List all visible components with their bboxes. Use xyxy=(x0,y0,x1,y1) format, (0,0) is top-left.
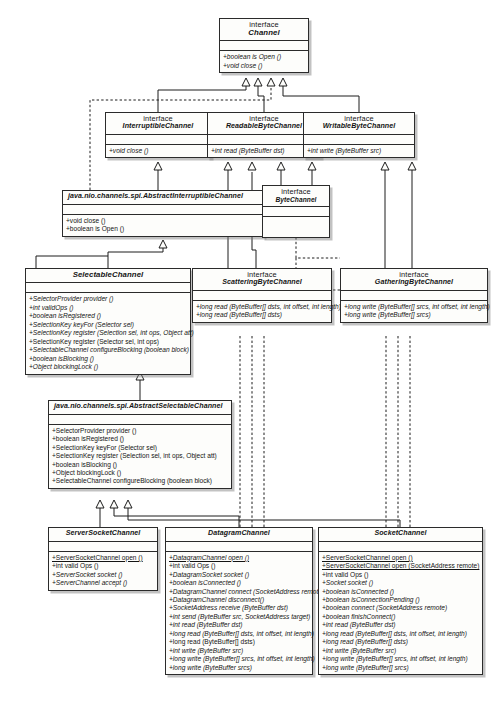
operation: +long read (ByteBuffer[] dsts) xyxy=(322,638,480,646)
class-header: java.nio.channels.spi.AbstractInterrupti… xyxy=(63,191,263,205)
class-header: java.nio.channels.spi.AbstractSelectable… xyxy=(49,401,231,415)
operation: +int read (ByteBuffer dst) xyxy=(169,621,310,629)
operation: +int send (ByteBuffer src, SocketAddress… xyxy=(169,613,310,621)
operation: +SelectionKey keyFor (Selector sel) xyxy=(29,321,188,329)
operation: +DatagramChannel disconnect() xyxy=(169,596,310,604)
class-header: interface WritableByteChannel xyxy=(304,113,414,135)
operation: +void close () xyxy=(109,147,208,155)
attributes-compartment xyxy=(49,542,157,552)
operation: +boolean isRegistered () xyxy=(29,312,188,320)
operation: +ServerSocketChannel open () xyxy=(322,554,480,562)
operation: +SelectionKey register (Selection sel, i… xyxy=(29,329,188,337)
class-box-selectablechannel[interactable]: SelectableChannel +SelectorProvider prov… xyxy=(25,268,191,375)
class-box-serversocketchannel[interactable]: ServerSocketChannel +ServerSocketChannel… xyxy=(48,527,158,591)
operation: +int write (ByteBuffer src) xyxy=(307,147,412,155)
operation: +int write (ByteBuffer src) xyxy=(169,647,310,655)
class-box-datagramchannel[interactable]: DatagramChannel +DatagramChannel open ()… xyxy=(165,527,313,675)
class-box-gatheringbytechannel[interactable]: interface GatheringByteChannel +long wri… xyxy=(340,268,488,323)
operation: +int write (ByteBuffer src) xyxy=(322,647,480,655)
class-header: ServerSocketChannel xyxy=(49,528,157,542)
attributes-compartment xyxy=(106,135,210,145)
operation: +boolean is Open () xyxy=(223,53,306,61)
operations-compartment: +void close () xyxy=(106,145,210,157)
operation: +SelectionKey register (Selection sel, i… xyxy=(52,452,229,460)
operation: +DatagramChannel connect (SocketAddress … xyxy=(169,588,310,596)
operations-compartment: +ServerSocketChannel open () +ServerSock… xyxy=(319,552,482,675)
operations-compartment: +SelectorProvider provider () +int valid… xyxy=(26,293,190,373)
operations-compartment: +void close () +boolean is Open () xyxy=(63,215,263,236)
operation: +int valid Ops () xyxy=(169,562,310,570)
operation: +DatagramSocket socket () xyxy=(169,571,310,579)
operation: +boolean finishConnect() xyxy=(322,613,480,621)
operation: +long write (ByteBuffer[] srcs) xyxy=(322,664,480,672)
class-box-channel[interactable]: interface Channel +boolean is Open () +v… xyxy=(219,18,309,73)
class-box-interruptiblechannel[interactable]: interface InterruptibleChannel +void clo… xyxy=(105,112,211,158)
stereotype-label: interface xyxy=(266,188,326,196)
class-name: InterruptibleChannel xyxy=(109,123,207,131)
class-box-abstractinterruptiblechannel[interactable]: java.nio.channels.spi.AbstractInterrupti… xyxy=(62,190,264,237)
operation: +DatagramChannel open () xyxy=(169,554,310,562)
operation: +SelectableChannel configureBlocking (bo… xyxy=(29,346,188,354)
operation: +SelectableChannel configureBlocking (bo… xyxy=(52,477,229,485)
operation: +int valid Ops () xyxy=(322,571,480,579)
operation: +ServerSocketChannel open (SocketAddress… xyxy=(322,562,480,570)
class-name: ByteChannel xyxy=(266,196,326,203)
operation: +void close () xyxy=(223,62,306,70)
operations-compartment: +long read (ByteBuffer[] dsts, int offse… xyxy=(193,301,331,322)
operation: +long read (ByteBuffer[] dsts, int offse… xyxy=(169,630,310,638)
class-name: java.nio.channels.spi.AbstractInterrupti… xyxy=(68,193,260,201)
attributes-compartment xyxy=(49,415,231,425)
operation: +int read (ByteBuffer dst) xyxy=(211,147,318,155)
operations-compartment: +long write (ByteBuffer[] srcs, int offs… xyxy=(341,301,487,322)
attributes-compartment xyxy=(166,542,312,552)
class-header: interface Channel xyxy=(220,19,308,41)
operations-compartment xyxy=(263,217,329,237)
operation: +boolean is Open () xyxy=(66,225,261,233)
attributes-compartment xyxy=(63,205,263,215)
operation: +long write (ByteBuffer[] srcs, int offs… xyxy=(169,655,310,663)
class-box-abstractselectablechannel[interactable]: java.nio.channels.spi.AbstractSelectable… xyxy=(48,400,232,489)
operation: +SelectorProvider provider () xyxy=(52,427,229,435)
operation: +boolean isConnectionPending () xyxy=(322,596,480,604)
attributes-compartment xyxy=(319,542,482,552)
operation: +long read (ByteBuffer[] dsts, int offse… xyxy=(196,303,329,311)
operations-compartment: +SelectorProvider provider () +boolean i… xyxy=(49,425,231,488)
operations-compartment: +DatagramChannel open () +int valid Ops … xyxy=(166,552,312,675)
class-name: Channel xyxy=(223,29,305,37)
operations-compartment: +boolean is Open () +void close () xyxy=(220,51,308,72)
operation: +SelectorProvider provider () xyxy=(29,295,188,303)
class-name: java.nio.channels.spi.AbstractSelectable… xyxy=(54,403,228,411)
class-box-bytechannel[interactable]: interface ByteChannel xyxy=(262,185,330,238)
operations-compartment: +int write (ByteBuffer src) xyxy=(304,145,414,157)
operation: +long write (ByteBuffer[] srcs) xyxy=(344,311,485,319)
class-box-scatteringbytechannel[interactable]: interface ScatteringByteChannel +long re… xyxy=(192,268,332,323)
operation: +int validOps () xyxy=(29,304,188,312)
class-name: GatheringByteChannel xyxy=(344,279,484,287)
operation: +boolean isRegistered () xyxy=(52,435,229,443)
operation: +long read (ByteBuffer[] dsts) xyxy=(196,311,329,319)
class-header: interface ScatteringByteChannel xyxy=(193,269,331,291)
operation: +boolean isBlocking () xyxy=(29,355,188,363)
operation: +Object blockingLock () xyxy=(29,363,188,371)
class-name: SocketChannel xyxy=(322,530,479,538)
operation: +ServerSocketChannel open () xyxy=(52,554,155,562)
operation: +Object blockingLock () xyxy=(52,469,229,477)
class-name: SelectableChannel xyxy=(29,271,187,279)
operation: +int valid Ops () xyxy=(52,562,155,570)
operation: +boolean isBlocking () xyxy=(52,461,229,469)
uml-class-diagram: .ln { stroke:#1d1d1d; stroke-width:1; fi… xyxy=(0,0,500,705)
operation: +boolean isConnected () xyxy=(322,588,480,596)
class-box-writablebytechannel[interactable]: interface WritableByteChannel +int write… xyxy=(303,112,415,158)
class-header: SelectableChannel xyxy=(26,269,190,283)
operation: +SocketAddress receive (ByteBuffer dst) xyxy=(169,604,310,612)
class-header: interface InterruptibleChannel xyxy=(106,113,210,135)
operation: +boolean connect (SocketAddress remote) xyxy=(322,604,480,612)
class-name: DatagramChannel xyxy=(169,530,309,538)
operation: +SelectionKey register (Selector sel, in… xyxy=(29,338,188,346)
operation: +long read (ByteBuffer[] dsts, int offse… xyxy=(322,630,480,638)
class-box-socketchannel[interactable]: SocketChannel +ServerSocketChannel open … xyxy=(318,527,483,675)
operation: +long read (ByteBuffer[] dsts) xyxy=(169,638,310,646)
operation: +boolean isConnected () xyxy=(169,579,310,587)
operation: +int read (ByteBuffer dst) xyxy=(322,621,480,629)
attributes-compartment xyxy=(220,41,308,51)
